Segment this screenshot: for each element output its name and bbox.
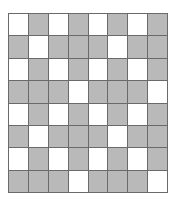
grid-cell-r5-c4 xyxy=(89,126,108,147)
grid-cell-r0-c0 xyxy=(9,14,28,35)
grid-cell-r4-c1 xyxy=(29,104,48,125)
grid-cell-r1-c6 xyxy=(128,36,147,57)
grid-cell-r1-c7 xyxy=(148,36,167,57)
checker-grid xyxy=(8,13,168,193)
grid-cell-r4-c4 xyxy=(89,104,108,125)
grid-cell-r4-c6 xyxy=(128,104,147,125)
grid-cell-r1-c5 xyxy=(108,36,127,57)
grid-cell-r6-c0 xyxy=(9,148,28,169)
grid-cell-r5-c2 xyxy=(49,126,68,147)
grid-cell-r4-c2 xyxy=(49,104,68,125)
grid-cell-r3-c4 xyxy=(89,81,108,102)
grid-cell-r3-c3 xyxy=(69,81,88,102)
grid-cell-r1-c2 xyxy=(49,36,68,57)
grid-cell-r0-c5 xyxy=(108,14,127,35)
grid-cell-r1-c3 xyxy=(69,36,88,57)
grid-cell-r6-c7 xyxy=(148,148,167,169)
grid-cell-r0-c2 xyxy=(49,14,68,35)
grid-cell-r6-c5 xyxy=(108,148,127,169)
grid-cell-r6-c2 xyxy=(49,148,68,169)
grid-cell-r2-c6 xyxy=(128,59,147,80)
grid-cell-r1-c4 xyxy=(89,36,108,57)
grid-cell-r6-c1 xyxy=(29,148,48,169)
grid-cell-r5-c7 xyxy=(148,126,167,147)
grid-cell-r4-c7 xyxy=(148,104,167,125)
grid-cell-r3-c0 xyxy=(9,81,28,102)
grid-cell-r1-c0 xyxy=(9,36,28,57)
grid-cell-r3-c5 xyxy=(108,81,127,102)
grid-cell-r6-c4 xyxy=(89,148,108,169)
grid-cell-r2-c3 xyxy=(69,59,88,80)
grid-cell-r4-c0 xyxy=(9,104,28,125)
grid-cell-r5-c3 xyxy=(69,126,88,147)
grid-cell-r5-c5 xyxy=(108,126,127,147)
grid-cell-r2-c4 xyxy=(89,59,108,80)
grid-cell-r0-c4 xyxy=(89,14,108,35)
grid-cell-r5-c0 xyxy=(9,126,28,147)
grid-cell-r2-c0 xyxy=(9,59,28,80)
grid-cell-r0-c3 xyxy=(69,14,88,35)
grid-cell-r2-c2 xyxy=(49,59,68,80)
grid-cell-r7-c7 xyxy=(148,171,167,192)
grid-cell-r3-c2 xyxy=(49,81,68,102)
grid-cell-r0-c6 xyxy=(128,14,147,35)
grid-cell-r4-c5 xyxy=(108,104,127,125)
grid-cell-r7-c5 xyxy=(108,171,127,192)
grid-cell-r5-c6 xyxy=(128,126,147,147)
grid-cell-r4-c3 xyxy=(69,104,88,125)
grid-cell-r3-c1 xyxy=(29,81,48,102)
grid-cell-r2-c5 xyxy=(108,59,127,80)
grid-cell-r7-c0 xyxy=(9,171,28,192)
grid-cell-r7-c6 xyxy=(128,171,147,192)
grid-cell-r3-c7 xyxy=(148,81,167,102)
grid-cell-r1-c1 xyxy=(29,36,48,57)
grid-cell-r0-c7 xyxy=(148,14,167,35)
grid-cell-r0-c1 xyxy=(29,14,48,35)
grid-cell-r5-c1 xyxy=(29,126,48,147)
grid-cell-r3-c6 xyxy=(128,81,147,102)
grid-cell-r6-c6 xyxy=(128,148,147,169)
grid-cell-r7-c4 xyxy=(89,171,108,192)
grid-cell-r7-c2 xyxy=(49,171,68,192)
grid-cell-r7-c3 xyxy=(69,171,88,192)
grid-cell-r2-c7 xyxy=(148,59,167,80)
grid-cell-r6-c3 xyxy=(69,148,88,169)
grid-cell-r2-c1 xyxy=(29,59,48,80)
grid-cell-r7-c1 xyxy=(29,171,48,192)
